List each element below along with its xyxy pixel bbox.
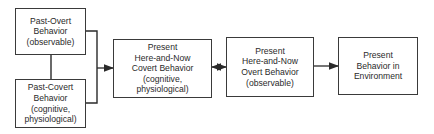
node-text: Present: [148, 42, 178, 53]
node-text: (cognitive,: [143, 74, 182, 85]
node-past-covert: Past-Covert Behavior (cognitive, physiol…: [15, 79, 86, 128]
node-text: Here-and-Now: [135, 53, 191, 64]
node-text: (observable): [246, 78, 294, 89]
node-text: Past-Covert: [28, 82, 73, 93]
node-past-overt: Past-Overt Behavior (observable): [15, 8, 86, 55]
node-text: Behavior: [34, 26, 68, 37]
node-text: Past-Overt: [30, 16, 71, 27]
node-text: Present: [255, 46, 285, 57]
node-text: Present: [363, 50, 393, 61]
node-present-environment: Present Behavior in Environment: [338, 37, 418, 95]
past-bracket-line: [86, 31, 97, 103]
node-text: Environment: [354, 71, 402, 82]
node-text: physiological): [24, 114, 76, 125]
node-text: Here-and-Now: [242, 56, 298, 67]
node-present-covert: Present Here-and-Now Covert Behavior (co…: [113, 39, 212, 98]
node-text: physiological): [136, 84, 188, 95]
node-text: (cognitive,: [31, 104, 70, 115]
node-text: Behavior: [34, 93, 68, 104]
node-text: (observable): [27, 37, 75, 48]
node-text: Behavior in: [357, 61, 400, 72]
node-text: Overt Behavior: [241, 67, 298, 78]
node-present-overt: Present Here-and-Now Overt Behavior (obs…: [226, 37, 314, 97]
node-text: Covert Behavior: [132, 63, 194, 74]
